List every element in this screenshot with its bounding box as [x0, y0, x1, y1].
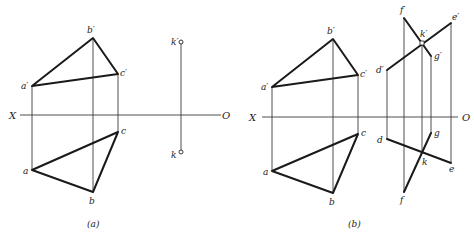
- axis-label-o-a: O: [222, 110, 230, 121]
- label-a-prime: a′: [21, 81, 28, 91]
- label-a-prime-b: a′: [261, 82, 268, 92]
- label-b-b: b: [329, 197, 335, 207]
- triangle-top-view-a: [32, 132, 118, 192]
- triangle-front-view-b: [272, 39, 358, 87]
- label-b-prime: b′: [87, 25, 95, 35]
- label-c-b: c: [361, 128, 366, 138]
- point-k-prime-marker: [179, 40, 183, 44]
- caption-b: (b): [348, 219, 361, 229]
- axis-label-x-a: X: [8, 110, 17, 121]
- label-c-prime: c′: [120, 68, 127, 78]
- projection-diagram: X O b′ a′ c′ c a b k′ k (a) X O: [0, 0, 474, 239]
- label-k-prime-b: k′: [420, 29, 428, 39]
- label-c-prime-b: c′: [360, 69, 367, 79]
- figure-b: X O b′ a′ c′ c a b f′ e′ k′ g′ d′ d g: [248, 5, 470, 229]
- label-g-prime: g′: [434, 51, 442, 61]
- label-a: a: [23, 166, 28, 176]
- label-k: k: [171, 150, 176, 160]
- label-e-prime: e′: [452, 12, 459, 22]
- triangle-front-view-a: [32, 38, 118, 86]
- axis-label-x-b: X: [248, 112, 257, 123]
- label-b: b: [89, 196, 95, 206]
- point-k-marker: [179, 150, 183, 154]
- figure-a: X O b′ a′ c′ c a b k′ k (a): [8, 25, 230, 229]
- point-k-prime-marker-b: [420, 41, 424, 45]
- label-d-prime: d′: [376, 65, 384, 75]
- label-e: e: [449, 164, 454, 174]
- label-a-b: a: [263, 167, 268, 177]
- label-f: f: [399, 195, 405, 205]
- label-f-prime: f′: [399, 5, 405, 15]
- label-d: d: [377, 135, 383, 145]
- label-k-prime: k′: [171, 37, 179, 47]
- axis-label-o-b: O: [462, 112, 470, 123]
- label-b-prime-b: b′: [327, 26, 335, 36]
- label-c: c: [121, 126, 126, 136]
- triangle-top-view-b: [272, 134, 358, 193]
- caption-a: (a): [87, 219, 100, 229]
- line-d-prime-e-prime: [387, 23, 451, 70]
- label-g: g: [434, 128, 440, 138]
- label-k-b: k: [422, 157, 427, 167]
